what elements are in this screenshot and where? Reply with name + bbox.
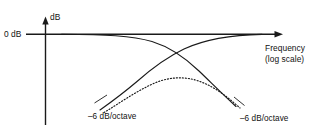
left-annotation-leader-line (95, 95, 108, 103)
figure-canvas: dB 0 dB Frequency (log scale) –6 dB/octa… (0, 0, 320, 136)
left-slope-annotation: –6 dB/octave (88, 112, 137, 121)
x-axis-arrow-icon (275, 31, 284, 37)
summed-response-curve (104, 78, 240, 113)
x-axis-label-line2: (log scale) (265, 54, 304, 64)
x-axis-label-line1: Frequency (265, 43, 306, 53)
high-pass-response-curve (100, 34, 262, 110)
right-slope-annotation: –6 dB/octave (240, 114, 289, 123)
frequency-response-figure: dB 0 dB Frequency (log scale) –6 dB/octa… (0, 0, 320, 136)
zero-db-label: 0 dB (4, 29, 22, 39)
y-axis-arrow-icon (42, 17, 48, 25)
y-axis-label: dB (50, 12, 61, 22)
low-pass-response-curve (62, 34, 236, 106)
